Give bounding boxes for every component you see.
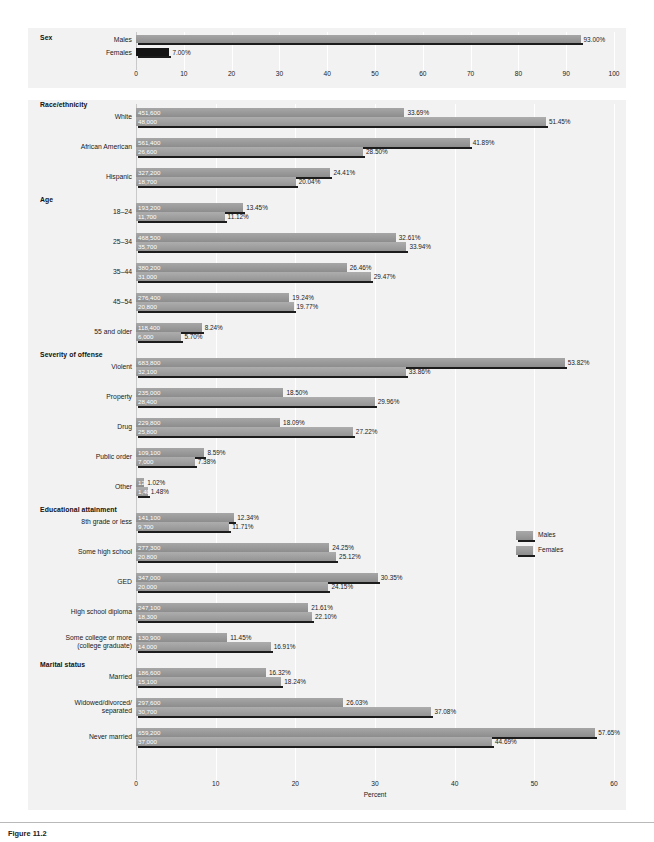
bar-count-label: 20,800 (138, 553, 157, 560)
bar-fill (136, 358, 565, 367)
bar-female: 18,300 (136, 612, 312, 621)
bar-female solid (136, 48, 169, 56)
x-tick-70: 70 (456, 70, 486, 77)
category-label-drug: Drug (32, 423, 132, 431)
x-tick-0: 0 (121, 780, 151, 787)
bar-shadow (138, 56, 171, 58)
bar-female: 30,700 (136, 707, 431, 716)
bar-count-label: 118,400 (138, 324, 160, 331)
bar-percent-label: 51.45% (549, 118, 571, 125)
bar-percent-label: 8.59% (207, 449, 225, 456)
bar-male: 193,200 (136, 203, 243, 212)
bar-male: 561,400 (136, 138, 470, 147)
group-heading-age: Age (40, 196, 53, 203)
bar-percent-label: 7.38% (198, 458, 216, 465)
bar-male: 327,200 (136, 168, 330, 177)
bar-percent-label: 32.61% (399, 234, 421, 241)
bar-percent-label: 13.45% (246, 204, 268, 211)
bar-shadow (138, 621, 314, 623)
bar-percent-label: 33.86% (409, 368, 431, 375)
bar-count-label: 18,700 (138, 178, 157, 185)
bar-male: 683,800 (136, 358, 565, 367)
bar-count-label: 25,800 (138, 428, 157, 435)
bar-count-label: 7,000 (138, 458, 153, 465)
bar-male: 130,900 (136, 633, 227, 642)
bar-percent-label: 37.08% (434, 708, 456, 715)
bar-female: 11,700 (136, 212, 225, 221)
bar-shadow (138, 406, 377, 408)
x-tick-100: 100 (599, 70, 629, 77)
bar-percent-label: 33.69% (407, 109, 429, 116)
x-tick-20: 20 (280, 780, 310, 787)
bar-shadow (138, 531, 231, 533)
bar-percent-label: 29.47% (374, 273, 396, 280)
legend-swatch-males (516, 531, 533, 540)
x-tick-50: 50 (519, 780, 549, 787)
bar-fill (136, 707, 431, 716)
bar-count-label: 276,400 (138, 294, 160, 301)
bar-fill (136, 367, 406, 376)
bar-fill (136, 427, 353, 436)
bar-male: 247,100 (136, 603, 308, 612)
bar-fill (136, 177, 296, 186)
bar-male: 276,400 (136, 293, 289, 302)
bar-count-label: 11,700 (138, 213, 156, 220)
bar-male: 380,200 (136, 263, 347, 272)
bar-fill (136, 737, 492, 746)
bar-percent-label: 33.94% (409, 243, 431, 250)
x-tick-30: 30 (264, 70, 294, 77)
bar-female: 20,800 (136, 552, 336, 561)
bar-female: 32,100 (136, 367, 406, 376)
bar-male: 109,100 (136, 448, 204, 457)
bar-shadow (138, 591, 330, 593)
bar-percent-label: 12.34% (237, 514, 259, 521)
bar-fill (136, 573, 378, 582)
bar-count-label: 6,000 (138, 333, 153, 340)
bar-percent-label: 27.22% (356, 428, 378, 435)
category-label-8th-grade-or-less: 8th grade or less (32, 518, 132, 526)
bar-fill (136, 108, 404, 117)
bar-female: 25,800 (136, 427, 353, 436)
gridline-60 (614, 104, 615, 780)
category-label-ged: GED (32, 578, 132, 586)
bar-fill (136, 117, 546, 126)
bar-fill (136, 612, 312, 621)
bar-count-label: 20,800 (138, 303, 157, 310)
bar-male: 229,800 (136, 418, 280, 427)
bar-male: 468,500 (136, 233, 396, 242)
category-label-55-and-older: 55 and older (32, 328, 132, 336)
bar-percent-label: 1.02% (147, 479, 165, 486)
bar-count-label: 18,300 (138, 613, 157, 620)
bar-fill (136, 552, 336, 561)
bar-count-label: 35,700 (138, 243, 157, 250)
bar-shadow (138, 496, 150, 498)
category-label-violent: Violent (32, 363, 132, 371)
bar-female: 20,000 (136, 582, 328, 591)
sex-panel: SexMales93.00%Females7.00%01020304050607… (28, 28, 626, 88)
x-tick-40: 40 (312, 70, 342, 77)
bar-fill (136, 147, 363, 156)
bar-percent-label: 24.15% (331, 583, 353, 590)
bar-percent-label: 28.50% (366, 148, 388, 155)
legend-swatch-females (516, 546, 533, 555)
bar-percent-label: 26.46% (350, 264, 372, 271)
bar-fill (136, 677, 281, 686)
x-axis-title: Percent (136, 791, 614, 798)
category-label-some-high-school: Some high school (32, 548, 132, 556)
bar-percent-label: 41.89% (473, 139, 495, 146)
bar-female: 31,000 (136, 272, 371, 281)
bar-shadow (138, 686, 283, 688)
bar-count-label: 28,400 (138, 398, 157, 405)
bar-female: 6,000 (136, 332, 181, 341)
bar-count-label: 327,200 (138, 169, 160, 176)
bar-percent-label: 18.50% (286, 389, 308, 396)
group-heading-severity-of-offense: Severity of offense (40, 351, 103, 358)
category-label-african-american: African American (32, 143, 132, 151)
bar-male: 235,000 (136, 388, 283, 397)
category-label-females: Females (48, 49, 132, 57)
bar-fill (136, 543, 329, 552)
bar-shadow (138, 186, 298, 188)
x-tick-80: 80 (503, 70, 533, 77)
category-label-hispanic: Hispanic (32, 173, 132, 181)
bar-count-label: 26,600 (138, 148, 157, 155)
